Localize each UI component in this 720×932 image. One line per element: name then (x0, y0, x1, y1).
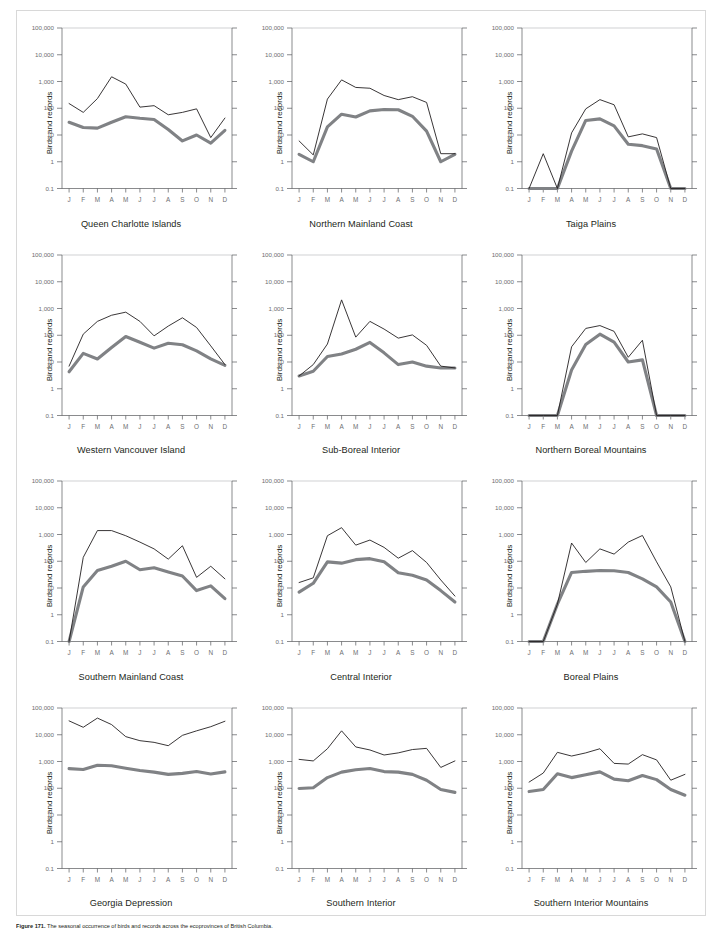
x-tick-label: O (194, 875, 199, 882)
series-line-birds (529, 571, 685, 642)
chart-panel: 100,00010,0001,0001001010.1JFMAMJJASONDB… (16, 463, 246, 690)
y-tick-label: 100,000 (32, 704, 55, 711)
x-tick-label: J (527, 875, 530, 882)
series-line-records (69, 531, 225, 642)
x-tick-label: A (339, 875, 344, 882)
x-tick-label: S (410, 649, 414, 656)
y-tick-label: 100,000 (492, 477, 515, 484)
y-tick-label: 0.1 (505, 638, 514, 645)
series-line-birds (299, 559, 455, 602)
chart-panel: 100,00010,0001,0001001010.1JFMAMJJASONDB… (16, 237, 246, 464)
y-tick-label: 1 (281, 384, 285, 391)
x-tick-label: A (109, 649, 114, 656)
x-tick-label: D (223, 196, 228, 203)
y-axis-label: Birds and records (275, 545, 284, 608)
y-tick-label: 10,000 (35, 277, 54, 284)
x-tick-label: J (527, 196, 530, 203)
x-tick-label: J (382, 649, 385, 656)
x-tick-label: J (67, 422, 70, 429)
chart-plot-area: 100,00010,0001,0001001010.1JFMAMJJASONDB… (246, 463, 476, 690)
x-tick-label: D (453, 196, 458, 203)
y-tick-label: 0.1 (45, 638, 54, 645)
y-tick-label: 10,000 (495, 277, 514, 284)
x-tick-label: A (569, 196, 574, 203)
x-tick-label: A (396, 875, 401, 882)
y-axis-label: Birds and records (505, 771, 514, 834)
y-tick-label: 10,000 (265, 730, 284, 737)
x-tick-label: O (654, 422, 659, 429)
x-tick-label: A (339, 196, 344, 203)
series-line-birds (69, 765, 225, 774)
x-tick-label: A (626, 422, 631, 429)
panel-title: Sub-Boreal Interior (246, 445, 476, 455)
y-tick-label: 0.1 (45, 411, 54, 418)
x-tick-label: S (180, 649, 184, 656)
x-tick-label: M (95, 649, 100, 656)
x-tick-label: J (368, 422, 371, 429)
x-tick-label: M (583, 649, 588, 656)
x-tick-label: J (297, 649, 300, 656)
y-tick-label: 1 (51, 384, 55, 391)
x-tick-label: M (95, 875, 100, 882)
x-tick-label: F (541, 422, 545, 429)
series-line-records (529, 535, 685, 641)
series-line-birds (299, 342, 455, 376)
x-tick-label: F (311, 649, 315, 656)
x-tick-label: J (152, 875, 155, 882)
chart-plot-area: 100,00010,0001,0001001010.1JFMAMJJASONDB… (246, 10, 476, 237)
x-tick-label: J (368, 875, 371, 882)
y-tick-label: 1 (281, 837, 285, 844)
x-tick-label: S (640, 649, 644, 656)
y-tick-label: 1,000 (269, 78, 285, 85)
x-tick-label: M (555, 196, 560, 203)
x-tick-label: M (583, 422, 588, 429)
x-tick-label: M (123, 649, 128, 656)
x-tick-label: A (109, 875, 114, 882)
y-tick-label: 0.1 (275, 411, 284, 418)
chart-panel: 100,00010,0001,0001001010.1JFMAMJJASONDB… (476, 10, 706, 237)
figure-caption: Figure 171. The seasonal occurrence of b… (16, 922, 706, 932)
x-tick-label: J (382, 875, 385, 882)
x-tick-label: F (81, 875, 85, 882)
x-tick-label: M (353, 649, 358, 656)
chart-panel: 100,00010,0001,0001001010.1JFMAMJJASONDB… (246, 690, 476, 917)
x-tick-label: J (67, 875, 70, 882)
x-tick-label: O (194, 649, 199, 656)
x-tick-label: F (541, 196, 545, 203)
y-tick-label: 1,000 (269, 304, 285, 311)
x-tick-label: M (325, 649, 330, 656)
x-tick-label: J (152, 422, 155, 429)
series-line-birds (529, 771, 685, 794)
y-tick-label: 1,000 (269, 757, 285, 764)
panel-title: Southern Interior Mountains (476, 898, 706, 908)
y-axis-label: Birds and records (45, 771, 54, 834)
y-tick-label: 1,000 (499, 78, 515, 85)
x-tick-label: N (208, 875, 213, 882)
x-tick-label: M (325, 422, 330, 429)
y-tick-label: 0.1 (505, 864, 514, 871)
x-tick-label: J (152, 196, 155, 203)
x-tick-label: A (166, 875, 171, 882)
figure-root: 100,00010,0001,0001001010.1JFMAMJJASONDB… (0, 0, 720, 932)
x-tick-label: J (297, 196, 300, 203)
x-tick-label: S (180, 196, 184, 203)
x-tick-label: D (683, 422, 688, 429)
x-tick-label: N (668, 196, 673, 203)
x-tick-label: N (208, 649, 213, 656)
chart-plot-area: 100,00010,0001,0001001010.1JFMAMJJASONDB… (476, 690, 706, 917)
x-tick-label: J (612, 875, 615, 882)
y-tick-label: 10,000 (265, 51, 284, 58)
y-axis-label: Birds and records (505, 318, 514, 381)
y-tick-label: 0.1 (505, 185, 514, 192)
chart-panel: 100,00010,0001,0001001010.1JFMAMJJASONDB… (246, 237, 476, 464)
y-axis-label: Birds and records (45, 318, 54, 381)
chart-plot-area: 100,00010,0001,0001001010.1JFMAMJJASONDB… (16, 237, 246, 464)
x-tick-label: S (640, 196, 644, 203)
x-tick-label: J (382, 422, 385, 429)
x-tick-label: J (297, 422, 300, 429)
x-tick-label: M (325, 196, 330, 203)
series-line-birds (529, 334, 685, 415)
x-tick-label: M (123, 875, 128, 882)
y-tick-label: 10,000 (35, 51, 54, 58)
y-tick-label: 1 (281, 611, 285, 618)
